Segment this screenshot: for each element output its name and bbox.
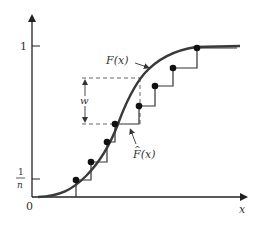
tick-1-label: 1 [20,40,27,53]
data-point [194,45,201,52]
tick-1n-numerator: 1 [18,167,24,177]
tick-1n-denominator: n [17,180,23,190]
empirical-cdf-steps [76,48,237,197]
data-point [170,65,177,72]
empirical-cdf-pointer [131,131,136,144]
gap-label: w [80,95,89,106]
data-point [73,177,80,184]
data-point [136,103,143,110]
data-point [104,139,111,146]
x-axis-label: x [239,203,246,216]
empirical-cdf-label: F(x) [132,148,155,161]
data-point [88,159,95,166]
data-point [152,83,159,90]
origin-label: 0 [26,200,33,213]
y-ticks [32,46,40,179]
step-path [76,48,237,197]
true-cdf-label: F(x) [105,54,128,67]
empirical-points [73,45,201,184]
gap-arrow: w [80,82,89,120]
dashed-guides [82,78,140,124]
true-cdf-pointer [135,63,147,67]
empirical-cdf-diagram: 1 1 n 0 x w F(x) ^ F(x) [0,0,260,228]
data-point [112,121,119,128]
